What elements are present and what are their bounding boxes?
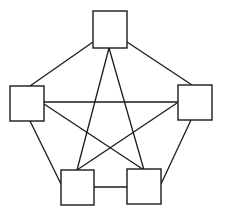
- node-top: [93, 11, 127, 48]
- node-right: [178, 85, 212, 120]
- edge-top-to-right: [127, 42, 192, 85]
- edge-left-to-bottom-left: [30, 121, 61, 184]
- node-bottom-right: [127, 169, 161, 204]
- edge-top-to-left: [30, 42, 93, 86]
- edge-top-to-bottom-right: [109, 48, 144, 170]
- node-bottom-left: [61, 170, 94, 205]
- edge-left-to-bottom-right: [44, 104, 144, 170]
- edge-right-to-bottom-right: [161, 120, 191, 184]
- node-left: [10, 86, 44, 121]
- k5-graph-diagram: [0, 0, 225, 220]
- nodes-group: [10, 11, 212, 205]
- edges-group: [30, 42, 192, 187]
